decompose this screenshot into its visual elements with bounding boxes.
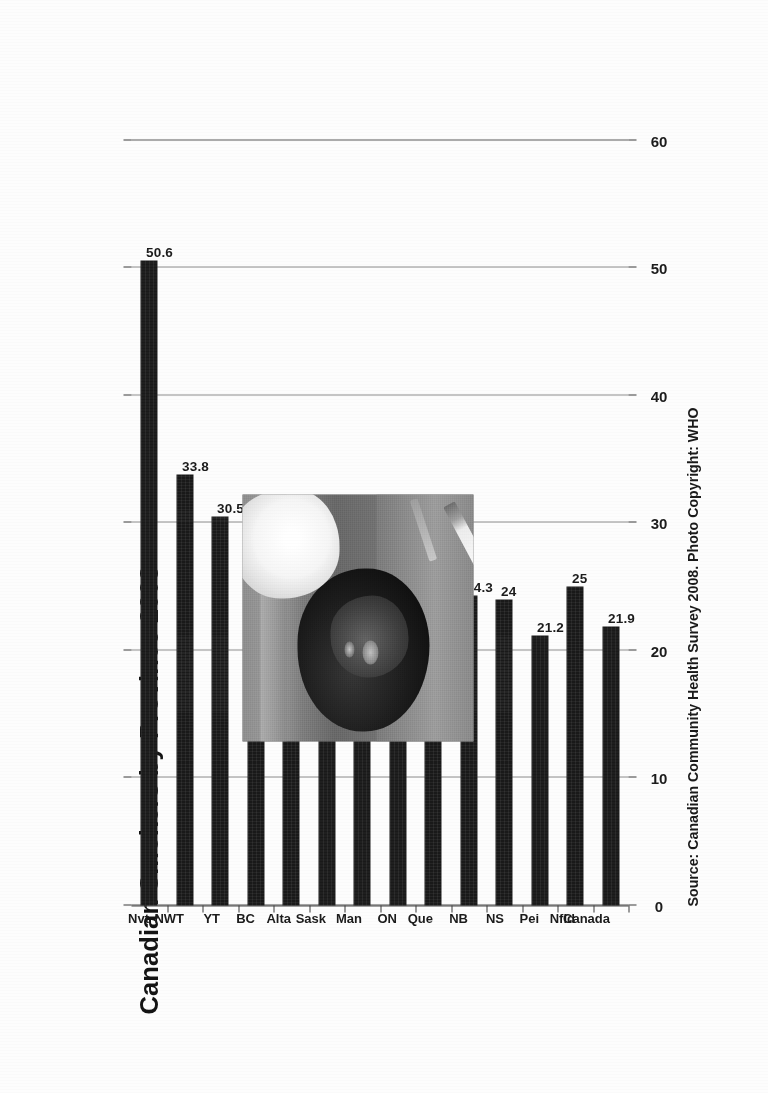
axis-tick-bottom-40 <box>628 394 636 395</box>
axis-tick-bottom-20 <box>628 649 636 650</box>
chart-canvas: Canadian Smokers by Province 2008 Source… <box>74 78 694 1015</box>
axis-tick-10 <box>123 777 131 778</box>
bar-nwt[interactable] <box>176 475 193 906</box>
rotated-chart-wrapper: Canadian Smokers by Province 2008 Source… <box>74 78 694 1015</box>
value-axis-label-50: 50 <box>645 261 673 278</box>
bar-value-label: 24 <box>501 584 516 599</box>
bar-value-label: 25 <box>572 571 587 586</box>
axis-tick-bottom-50 <box>628 267 636 268</box>
axis-tick-50 <box>123 267 131 268</box>
axis-tick-bottom-60 <box>628 139 636 140</box>
bar-row[interactable]: 33.8 <box>167 141 203 906</box>
axis-tick-0 <box>123 904 131 905</box>
bar-row[interactable]: 30.5 <box>202 141 238 906</box>
value-axis-label-60: 60 <box>645 133 673 150</box>
axis-tick-30 <box>123 522 131 523</box>
bar-row[interactable]: 21.9 <box>593 141 629 906</box>
bar-row[interactable]: 50.6 <box>131 141 167 906</box>
axis-tick-60 <box>123 139 131 140</box>
photo-cloth <box>242 495 339 599</box>
embedded-photo <box>242 495 473 742</box>
bar-yt[interactable] <box>211 517 228 906</box>
bar-canada[interactable] <box>602 626 619 905</box>
axis-tick-40 <box>123 394 131 395</box>
bar-ns[interactable] <box>495 600 512 906</box>
category-label-canada: Canada <box>530 911 610 926</box>
axis-tick-20 <box>123 649 131 650</box>
value-axis-label-40: 40 <box>645 388 673 405</box>
value-axis-label-10: 10 <box>645 771 673 788</box>
photo-face-highlight <box>362 640 378 665</box>
category-tick <box>628 906 629 913</box>
bar-row[interactable]: 25 <box>557 141 593 906</box>
value-axis-label-0: 0 <box>645 898 673 915</box>
axis-tick-bottom-10 <box>628 777 636 778</box>
value-axis-label-30: 30 <box>645 516 673 533</box>
source-note: Source: Canadian Community Health Survey… <box>684 117 700 907</box>
photo-face <box>330 596 409 678</box>
bar-row[interactable]: 24 <box>486 141 522 906</box>
photo-eye <box>344 641 354 657</box>
bar-value-label: 21.9 <box>607 611 634 626</box>
value-axis-label-20: 20 <box>645 643 673 660</box>
bar-nvt[interactable] <box>140 260 157 905</box>
bar-nfld[interactable] <box>566 587 583 906</box>
bar-row[interactable]: 21.2 <box>522 141 558 906</box>
bar-pei[interactable] <box>531 635 548 905</box>
axis-tick-bottom-30 <box>628 522 636 523</box>
